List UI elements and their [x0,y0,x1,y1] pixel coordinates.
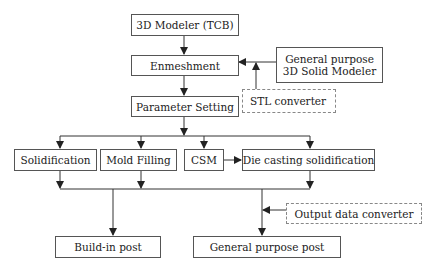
node-3d-modeler-tcb: 3D Modeler (TCB) [131,14,239,36]
node-parameter-setting: Parameter Setting [131,96,239,117]
node-label-line2: 3D Solid Modeler [283,65,376,77]
node-label: CSM [191,154,217,166]
node-csm: CSM [184,149,224,171]
node-general-purpose-post: General purpose post [193,236,341,258]
node-label: Enmeshment [150,60,220,72]
node-label: Mold Filling [106,154,171,166]
node-label-line1: General purpose [285,53,374,65]
node-label: Die casting solidification [243,154,375,166]
node-build-in-post: Build-in post [55,236,161,258]
node-label: STL converter [250,95,326,107]
node-solidification: Solidification [14,149,97,171]
node-label: General purpose post [210,241,325,253]
connector-lines [0,0,432,271]
node-mold-filling: Mold Filling [100,149,177,171]
node-stl-converter: STL converter [242,89,336,113]
node-label: Solidification [20,154,90,166]
node-label: 3D Modeler (TCB) [136,19,233,31]
node-general-purpose-3d-solid-modeler: General purpose 3D Solid Modeler [276,47,383,83]
node-label: Parameter Setting [136,101,234,113]
node-output-data-converter: Output data converter [286,203,422,224]
node-label: Build-in post [74,241,142,253]
node-enmeshment: Enmeshment [131,55,239,76]
node-label: Output data converter [294,208,413,220]
node-die-casting-solidification: Die casting solidification [242,149,375,171]
